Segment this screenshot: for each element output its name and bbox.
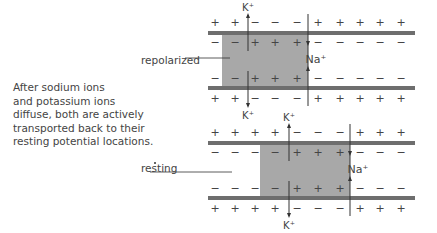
svg-text:−: −	[355, 36, 364, 49]
diagram-root: ++++−−−−−−++++++++++−−−−++++++−−−−−−−−−−…	[0, 0, 437, 233]
svg-text:−: −	[230, 182, 239, 195]
svg-text:−: −	[396, 182, 405, 195]
svg-text:+: +	[355, 92, 364, 105]
svg-text:+: +	[210, 92, 219, 105]
svg-text:+: +	[375, 126, 384, 139]
svg-text:+: +	[313, 182, 322, 195]
svg-text:−: −	[270, 16, 279, 29]
svg-text:+: +	[396, 16, 405, 29]
svg-text:−: −	[396, 72, 405, 85]
svg-text:−: −	[292, 126, 301, 139]
svg-text:+: +	[250, 126, 259, 139]
svg-text:−: −	[335, 126, 344, 139]
svg-text:+: +	[210, 202, 219, 215]
svg-text:−: −	[270, 146, 279, 159]
caption-line: diffuse, both are actively	[13, 108, 153, 122]
svg-text:−: −	[313, 202, 322, 215]
svg-text:+: +	[210, 16, 219, 29]
svg-text:−: −	[375, 146, 384, 159]
svg-text:−: −	[292, 16, 301, 29]
svg-text:+: +	[230, 16, 239, 29]
svg-text:Na⁺: Na⁺	[348, 163, 369, 176]
svg-text:+: +	[396, 202, 405, 215]
caption: After sodium ions and potassium ions dif…	[13, 81, 153, 149]
svg-text:K⁺: K⁺	[283, 220, 295, 231]
svg-text:−: −	[335, 36, 344, 49]
svg-text:−: −	[396, 146, 405, 159]
svg-text:−: −	[335, 72, 344, 85]
svg-text:−: −	[250, 182, 259, 195]
svg-text:−: −	[355, 146, 364, 159]
svg-text:−: −	[313, 72, 322, 85]
svg-text:K⁺: K⁺	[242, 110, 254, 121]
svg-text:−: −	[313, 126, 322, 139]
svg-text:+: +	[292, 36, 301, 49]
svg-text:+: +	[355, 202, 364, 215]
svg-text:−: −	[230, 146, 239, 159]
svg-text:−: −	[210, 182, 219, 195]
svg-text:+: +	[250, 202, 259, 215]
svg-text:+: +	[335, 92, 344, 105]
svg-text:+: +	[335, 146, 344, 159]
svg-text:−: −	[230, 36, 239, 49]
svg-text:−: −	[210, 146, 219, 159]
svg-text:−: −	[396, 36, 405, 49]
svg-text:+: +	[230, 202, 239, 215]
svg-text:+: +	[396, 126, 405, 139]
svg-text:−: −	[375, 36, 384, 49]
svg-text:−: −	[355, 182, 364, 195]
label-resting: resting	[141, 162, 177, 174]
svg-text:+: +	[313, 16, 322, 29]
svg-text:+: +	[375, 202, 384, 215]
svg-text:−: −	[270, 92, 279, 105]
svg-text:+: +	[250, 36, 259, 49]
caption-line: and potassium ions	[13, 95, 153, 109]
label-repolarized: repolarized	[141, 54, 200, 66]
svg-text:+: +	[270, 202, 279, 215]
svg-text:+: +	[270, 126, 279, 139]
svg-text:+: +	[313, 92, 322, 105]
svg-text:−: −	[292, 202, 301, 215]
svg-text:−: −	[355, 72, 364, 85]
svg-text:+: +	[355, 16, 364, 29]
svg-text:−: −	[375, 182, 384, 195]
svg-text:−: −	[230, 72, 239, 85]
caption-line: transported back to their	[13, 122, 153, 136]
svg-text:+: +	[270, 36, 279, 49]
svg-text:+: +	[292, 182, 301, 195]
svg-text:−: −	[313, 36, 322, 49]
caption-line: resting potential locations.	[13, 135, 153, 149]
svg-text:+: +	[355, 126, 364, 139]
svg-text:+: +	[375, 92, 384, 105]
svg-text:+: +	[292, 72, 301, 85]
svg-text:+: +	[210, 126, 219, 139]
svg-text:−: −	[270, 182, 279, 195]
svg-text:+: +	[396, 92, 405, 105]
svg-text:−: −	[250, 92, 259, 105]
caption-line: After sodium ions	[13, 81, 153, 95]
svg-text:+: +	[230, 126, 239, 139]
svg-text:−: −	[335, 202, 344, 215]
svg-text:+: +	[335, 182, 344, 195]
svg-text:−: −	[210, 36, 219, 49]
svg-text:+: +	[250, 72, 259, 85]
svg-text:−: −	[210, 72, 219, 85]
svg-text:K⁺: K⁺	[242, 2, 254, 13]
svg-text:+: +	[270, 72, 279, 85]
svg-text:+: +	[375, 16, 384, 29]
svg-text:+: +	[313, 146, 322, 159]
svg-text:+: +	[292, 146, 301, 159]
svg-text:−: −	[375, 72, 384, 85]
svg-text:+: +	[230, 92, 239, 105]
svg-text:−: −	[292, 92, 301, 105]
svg-text:−: −	[250, 16, 259, 29]
svg-text:+: +	[335, 16, 344, 29]
svg-text:K⁺: K⁺	[283, 112, 295, 123]
svg-text:−: −	[250, 146, 259, 159]
svg-text:Na⁺: Na⁺	[306, 53, 327, 66]
